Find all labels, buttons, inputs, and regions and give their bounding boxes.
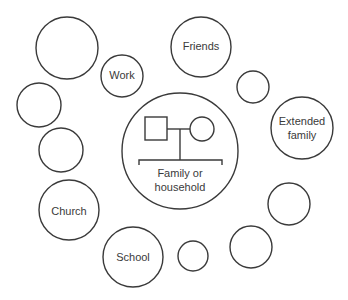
node-top-left-large [36, 17, 98, 79]
family-label-line1: Family or [157, 167, 203, 179]
family-household-node: Family or household [122, 93, 238, 209]
male-square-icon [145, 117, 167, 140]
friends-label: Friends [183, 40, 220, 52]
extended-family-label-line1: Extended [279, 115, 325, 127]
node-extended-family: Extended family [271, 97, 333, 159]
school-label: School [116, 251, 150, 263]
children-bracket [139, 160, 222, 165]
node-work: Work [101, 55, 143, 97]
node-left-middle [39, 128, 83, 172]
church-label: Church [51, 205, 86, 217]
node-friends: Friends [171, 17, 231, 77]
family-label-line2: household [155, 181, 206, 193]
ecomap-diagram: Family or household Work Friends Extende… [0, 0, 348, 300]
female-circle-icon [190, 117, 214, 141]
node-left-upper [17, 83, 61, 127]
ecomap-svg: Family or household Work Friends Extende… [0, 0, 348, 300]
node-bottom-small [178, 241, 208, 271]
node-bottom-right-mid [230, 226, 272, 268]
node-church: Church [39, 180, 99, 240]
node-right-lower [268, 183, 310, 225]
work-label: Work [109, 69, 135, 81]
node-small-right-top [237, 71, 269, 103]
extended-family-label-line2: family [288, 129, 317, 141]
node-school: School [103, 227, 163, 287]
